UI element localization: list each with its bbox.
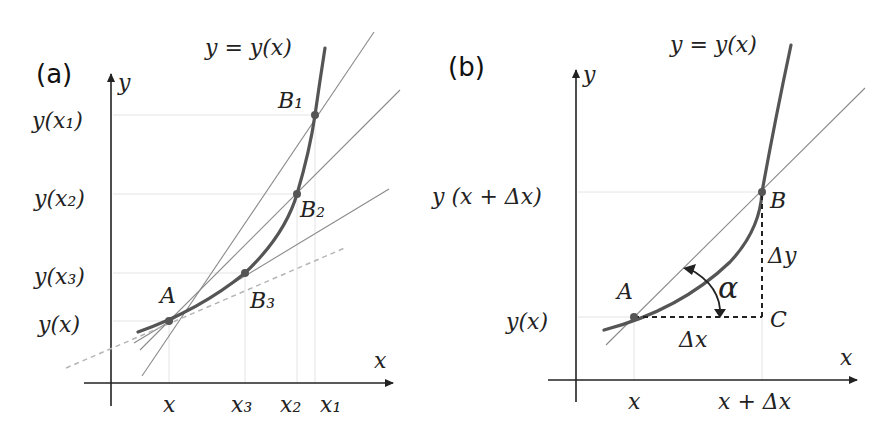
label-alpha: α [718,270,738,305]
panel-b-label: (b) [448,52,485,82]
label-a: A [158,283,176,308]
y-tick-y-x2: y(x₂) [33,186,85,211]
panel-a-label: (a) [36,59,72,89]
secant-a-b [606,88,865,345]
label-a-b: A [615,279,633,304]
point-a [165,317,173,325]
label-b: B [769,188,786,213]
panel-b-curve-label: y = y(x) [669,32,757,57]
label-delta-y: Δy [767,243,797,268]
label-b1: B₁ [277,88,303,113]
panel-b: (b) y = y(x) y x y (x + Δx) y(x) [431,32,865,414]
x-tick-x2: x₂ [280,392,301,417]
x-tick-x-plus-dx: x + Δx [718,389,792,414]
point-b1 [311,111,319,119]
secant-a-b1 [142,32,374,376]
y-tick-y-x3: y(x₃) [33,264,85,289]
x-tick-x: x [163,392,176,417]
x-tick-x3: x₃ [231,392,252,417]
x-tick-x-b: x [628,389,641,414]
panel-a-gridlines [113,115,315,383]
panel-a-y-axis-label: y [117,70,131,95]
y-tick-y-x-plus-dx: y (x + Δx) [431,184,542,209]
label-b3: B₃ [249,288,275,313]
panel-a-curve-label: y = y(x) [204,35,292,60]
label-b2: B₂ [299,197,325,222]
x-tick-x1: x₁ [320,392,341,417]
label-c: C [770,307,787,332]
point-b3 [241,269,249,277]
label-delta-x: Δx [678,327,708,352]
panel-b-x-axis-label: x [840,345,853,370]
point-a-b [630,313,638,321]
panel-a: (a) y = y(x) y x y(x₁) [31,32,400,417]
diagram-canvas: (a) y = y(x) y x y(x₁) [0,0,886,436]
y-tick-y-x-b: y(x) [505,309,548,334]
tangent-at-a [66,247,347,368]
panel-a-x-axis-label: x [374,348,387,373]
y-tick-y-x1: y(x₁) [31,108,83,133]
point-b [758,188,766,196]
angle-arrowhead-top [683,264,696,275]
panel-b-y-axis-label: y [582,62,596,87]
y-tick-y-x: y(x) [37,312,80,337]
